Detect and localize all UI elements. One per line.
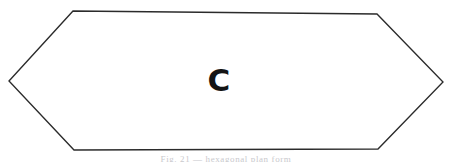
- hexagon-diagram: C: [0, 0, 452, 162]
- figure-canvas: C Fig. 21 — hexagonal plan form: [0, 0, 452, 162]
- shape-label-c: C: [208, 62, 231, 98]
